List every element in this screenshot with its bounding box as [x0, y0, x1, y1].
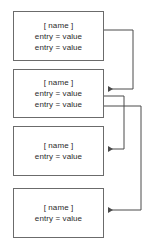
node-entry: entry = value	[35, 99, 82, 110]
diagram-node[interactable]: [ name ] entry = value	[13, 188, 104, 238]
node-entry: entry = value	[35, 31, 82, 42]
node-entry: entry = value	[35, 213, 82, 224]
edge-node2-to-node4	[104, 106, 141, 210]
node-entry: entry = value	[35, 151, 82, 162]
node-title: [ name ]	[44, 202, 74, 213]
edge-node1-to-node2	[104, 30, 133, 89]
diagram-canvas: [ name ] entry = value entry = value [ n…	[0, 0, 157, 250]
node-entry: entry = value	[35, 88, 82, 99]
node-entry: entry = value	[35, 42, 82, 53]
diagram-node[interactable]: [ name ] entry = value	[13, 126, 104, 176]
node-title: [ name ]	[44, 140, 74, 151]
node-title: [ name ]	[44, 77, 74, 88]
diagram-node[interactable]: [ name ] entry = value entry = value	[13, 69, 104, 118]
edge-node2-to-node3	[104, 96, 124, 149]
node-title: [ name ]	[44, 20, 74, 31]
diagram-node[interactable]: [ name ] entry = value entry = value	[13, 11, 104, 61]
